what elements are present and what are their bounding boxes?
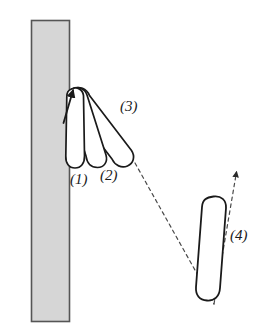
rod-label-1: (1) bbox=[70, 172, 88, 187]
wall-rectangle bbox=[32, 21, 70, 322]
rod-label-2: (2) bbox=[100, 168, 118, 183]
rod-label-4: (4) bbox=[230, 228, 248, 243]
rod-label-3: (3) bbox=[120, 99, 138, 114]
rod-4 bbox=[196, 196, 226, 300]
rod-1 bbox=[66, 88, 85, 168]
figure-canvas: (1) (2) (3) (4) bbox=[0, 0, 264, 336]
diagram-svg bbox=[0, 0, 264, 336]
